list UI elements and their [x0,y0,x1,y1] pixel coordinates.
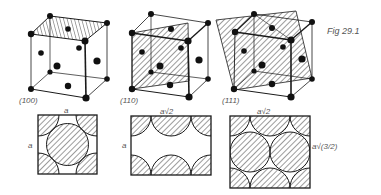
plane-100-packing: a a [17,94,118,195]
cube-100: (100) [19,13,110,105]
plane-111-packing: a√2 a√(3/2) [210,96,338,195]
plane-110-shading [132,23,189,89]
plane-label-100: (100) [19,96,38,105]
dim-side-111: a√(3/2) [312,142,338,151]
dim-top-100: a [64,106,69,115]
dim-top-110: a√2 [160,107,174,116]
dim-side-110: a [122,141,127,150]
dim-side-100: a [28,141,33,150]
cube-110: (110) [120,11,211,105]
figure-caption: Fig 29.1 [327,26,360,36]
crystal-planes-diagram: (100) (110) [0,0,381,195]
plane-110-packing: a√2 a [111,96,231,195]
plane-label-110: (110) [120,96,138,105]
dim-top-111: a√2 [257,107,271,116]
plane-111-shading [216,11,312,90]
cube-111: (111) [216,11,315,105]
plane-label-111: (111) [222,96,240,105]
